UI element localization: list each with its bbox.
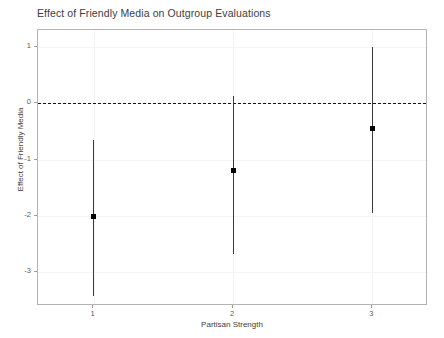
x-axis-title: Partisan Strength <box>37 320 427 329</box>
x-axis-tick-label: 3 <box>369 309 373 318</box>
data-point-marker <box>91 214 96 219</box>
y-axis-tick-mark <box>34 46 37 47</box>
gridline-horizontal <box>38 272 426 273</box>
x-axis-tick-label: 2 <box>230 309 234 318</box>
y-axis-tick-label: 1 <box>27 41 31 50</box>
y-axis-tick-mark <box>34 159 37 160</box>
x-axis-tick-mark <box>232 305 233 308</box>
plot-panel <box>37 29 427 305</box>
y-axis-title: Effect of Friendly Media <box>16 80 25 220</box>
x-axis-tick-marks <box>37 305 427 309</box>
y-axis-tick-mark <box>34 271 37 272</box>
y-axis-tick-label: -1 <box>24 154 31 163</box>
gridline-horizontal <box>38 47 426 48</box>
y-axis-tick-label: -3 <box>24 266 31 275</box>
error-bar <box>233 96 234 254</box>
y-axis-tick-mark <box>34 215 37 216</box>
y-axis-tick-label: -2 <box>24 210 31 219</box>
chart-figure: Effect of Friendly Media on Outgroup Eva… <box>0 0 444 338</box>
data-point-marker <box>370 126 375 131</box>
x-axis-tick-mark <box>371 305 372 308</box>
y-axis-tick-marks <box>33 29 37 305</box>
x-axis-tick-mark <box>92 305 93 308</box>
data-point-marker <box>231 168 236 173</box>
chart-title: Effect of Friendly Media on Outgroup Eva… <box>37 7 271 19</box>
x-axis-tick-label: 1 <box>91 309 95 318</box>
y-axis-tick-mark <box>34 102 37 103</box>
y-axis-tick-label: 0 <box>27 97 31 106</box>
